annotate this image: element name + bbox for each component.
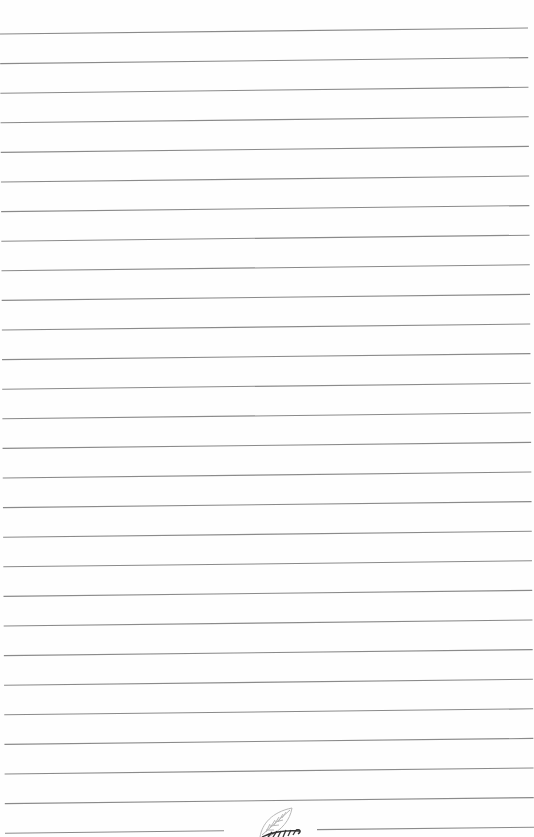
ruled-line: [4, 620, 533, 626]
ruled-line: [3, 561, 532, 567]
ruled-line: [5, 798, 534, 804]
ruled-line: [2, 354, 530, 360]
ruled-line: [4, 738, 533, 744]
ruled-line: [1, 117, 529, 123]
ruled-line: [2, 413, 530, 419]
ruled-line: [3, 472, 532, 478]
ruled-line: [1, 235, 529, 241]
ruled-line: [2, 383, 530, 389]
ruled-line: [3, 442, 532, 448]
ruled-line: [4, 650, 533, 656]
ruled-line: [0, 28, 528, 34]
ruled-line: [0, 87, 528, 93]
ruled-line: [2, 324, 530, 330]
ruled-line: [4, 590, 533, 596]
ruled-line: [2, 294, 530, 300]
ruled-lines: [0, 0, 534, 837]
ruled-line: [4, 709, 533, 715]
leaf-logo-icon: [248, 806, 310, 837]
ruled-line: [4, 679, 533, 685]
ruled-line: [1, 146, 529, 152]
notebook-page: [0, 0, 534, 837]
ruled-line: [1, 176, 529, 182]
ruled-line: [5, 768, 534, 774]
ruled-line: [317, 827, 534, 829]
ruled-line: [5, 831, 224, 833]
ruled-line: [1, 265, 529, 271]
ruled-line: [0, 58, 528, 64]
ruled-line: [3, 502, 532, 508]
ruled-line: [3, 531, 532, 537]
ruled-line: [1, 206, 529, 212]
